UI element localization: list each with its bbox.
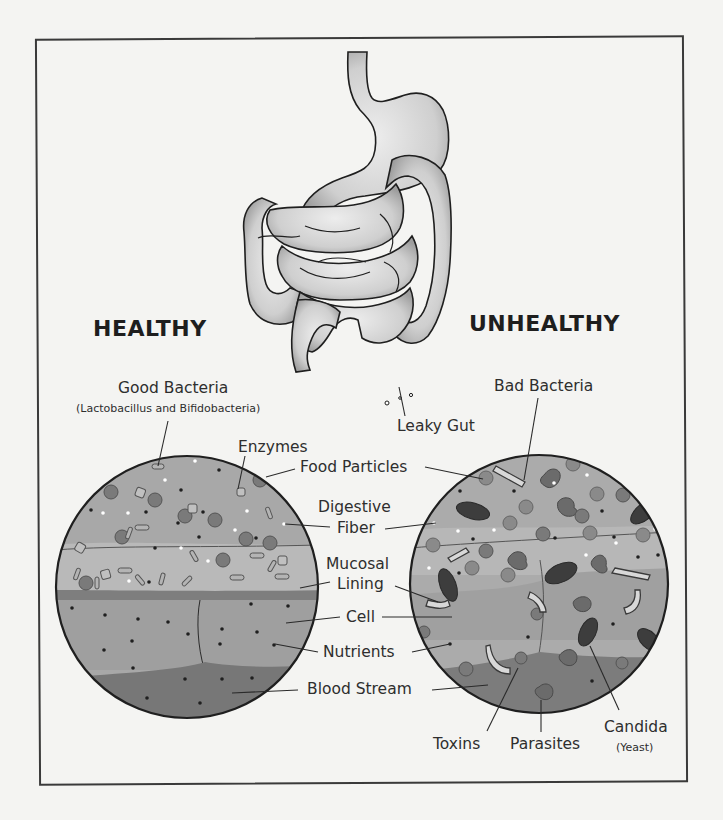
enzymes-label: Enzymes [238,440,308,456]
candida-label: Candida [604,720,668,736]
candida-sublabel: (Yeast) [616,742,653,753]
lining-label: Lining [337,577,384,593]
blood-stream-label: Blood Stream [307,682,412,698]
fiber-label: Fiber [337,521,375,537]
healthy-heading: HEALTHY [93,318,207,340]
digestive-tract-icon [244,52,452,372]
good-bacteria-sublabel: (Lactobacillus and Bifidobacteria) [76,403,260,414]
toxins-label: Toxins [433,737,480,753]
leaky-gut-droplets-icon [385,393,413,405]
unhealthy-gut-cross-section [405,450,675,720]
digestive-label: Digestive [318,500,391,516]
parasites-label: Parasites [510,737,580,753]
gut-health-diagram: HEALTHY UNHEALTHY Good Bacteria (Lactoba… [0,0,723,820]
nutrients-label: Nutrients [323,645,395,661]
good-bacteria-label: Good Bacteria [118,381,228,397]
healthy-gut-cross-section [50,450,330,730]
food-particles-label: Food Particles [300,460,407,476]
unhealthy-heading: UNHEALTHY [469,313,620,335]
mucosal-label: Mucosal [326,557,389,573]
cell-label: Cell [346,610,375,626]
leaky-gut-label: Leaky Gut [397,419,475,435]
bad-bacteria-label: Bad Bacteria [494,379,593,395]
